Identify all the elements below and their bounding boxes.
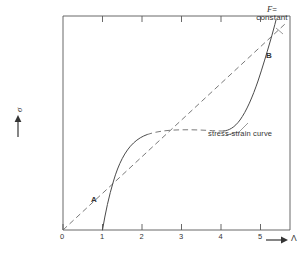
figure-container: 0 1 2 3 4 5 Λ σ A B stress-strain curve … bbox=[0, 0, 304, 254]
x-axis-ticks-top bbox=[103, 16, 261, 22]
force-constant-label: F= constant bbox=[246, 5, 298, 23]
x-axis-arrow bbox=[266, 237, 288, 244]
x-tick-label-2: 2 bbox=[140, 233, 144, 241]
x-tick-label-4: 4 bbox=[219, 233, 223, 241]
stress-strain-curve-lower-solid bbox=[103, 135, 148, 230]
x-tick-label-3: 3 bbox=[179, 233, 183, 241]
force-constant-line2: constant bbox=[246, 14, 298, 22]
y-axis-arrow bbox=[15, 115, 22, 137]
x-axis-ticks-bottom bbox=[63, 224, 261, 230]
point-label-a: A bbox=[91, 196, 97, 204]
x-tick-label-5: 5 bbox=[258, 233, 262, 241]
curve-annotation-label: stress-strain curve bbox=[208, 130, 272, 138]
x-tick-label-1: 1 bbox=[100, 233, 104, 241]
x-axis-label: Λ bbox=[291, 234, 297, 243]
y-axis-label: σ bbox=[14, 108, 24, 112]
point-label-b: B bbox=[266, 52, 272, 60]
plot-canvas bbox=[0, 0, 304, 254]
stress-strain-curve-upper-solid bbox=[224, 20, 277, 131]
x-tick-label-0: 0 bbox=[60, 233, 64, 241]
